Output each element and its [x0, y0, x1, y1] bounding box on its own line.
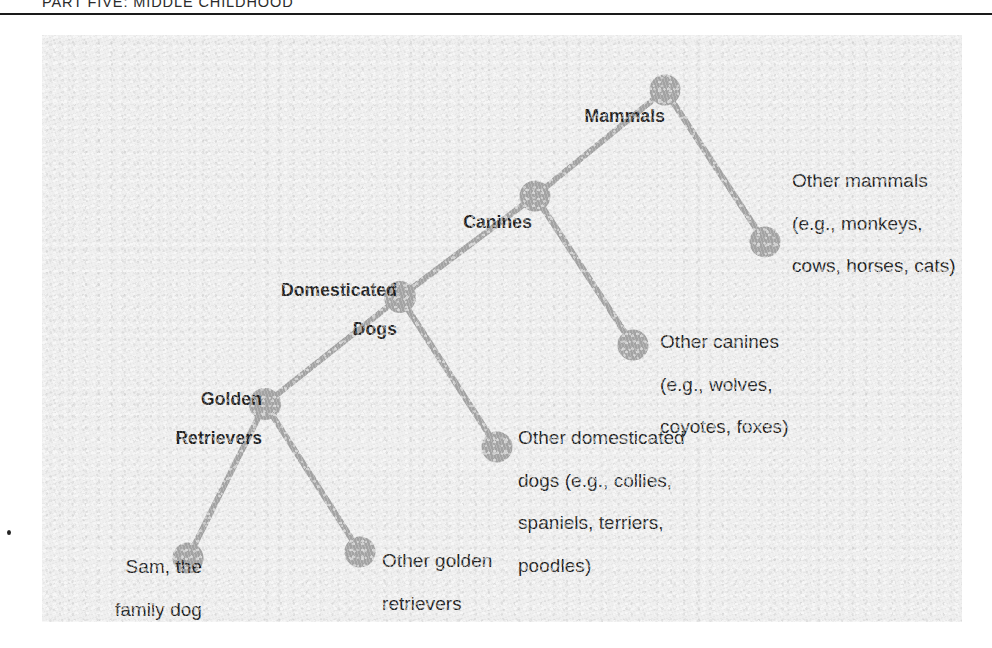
tree-node-other_dom [482, 432, 513, 463]
tree-edge-mammals-to-other_mammals [665, 90, 765, 242]
label-domesticated-dogs-line1: Domesticated [197, 281, 397, 301]
label-domesticated-dogs-line2: Dogs [197, 320, 397, 340]
figure-panel: Mammals Other mammals (e.g., monkeys, co… [42, 35, 962, 622]
header-rule [0, 13, 992, 15]
label-sam-line2: family dog [42, 599, 202, 620]
running-head: PART FIVE: MIDDLE CHILDHOOD [42, 0, 294, 10]
tree-node-other_mammals [750, 227, 781, 258]
label-other-dom-line2: dogs (e.g., collies, [518, 470, 768, 491]
label-other-canines-line1: Other canines [660, 331, 870, 352]
tree-node-mammals [650, 75, 681, 106]
label-other-golden-line2: retrievers [382, 593, 602, 614]
tree-node-other_canines [618, 330, 649, 361]
label-sam-line1: Sam, the [42, 556, 202, 577]
label-other-golden-retrievers: Other golden retrievers [382, 529, 602, 622]
tree-edge-dom_dogs-to-other_dom [400, 297, 497, 447]
tree-edge-canines-to-other_canines [535, 196, 633, 345]
tree-node-canines [520, 181, 551, 212]
label-other-mammals-line2: (e.g., monkeys, [792, 213, 962, 234]
tree-node-other_golden [345, 537, 376, 568]
label-canines: Canines [372, 213, 532, 233]
label-other-dom-line1: Other domesticated [518, 427, 768, 448]
label-golden-retrievers: Golden Retrievers [62, 370, 262, 468]
label-other-mammals-line1: Other mammals [792, 170, 962, 191]
label-other-mammals-line3: cows, horses, cats) [792, 255, 962, 276]
label-mammals: Mammals [505, 107, 665, 127]
label-other-canines-line2: (e.g., wolves, [660, 374, 870, 395]
label-other-golden-line1: Other golden [382, 550, 602, 571]
label-golden-line1: Golden [62, 390, 262, 410]
label-golden-line2: Retrievers [62, 429, 262, 449]
margin-speck [7, 530, 11, 535]
label-other-mammals: Other mammals (e.g., monkeys, cows, hors… [792, 149, 962, 298]
label-domesticated-dogs: Domesticated Dogs [197, 261, 397, 359]
tree-edge-golden-to-other_golden [265, 404, 360, 552]
label-sam-family-dog: Sam, the family dog [42, 535, 202, 622]
